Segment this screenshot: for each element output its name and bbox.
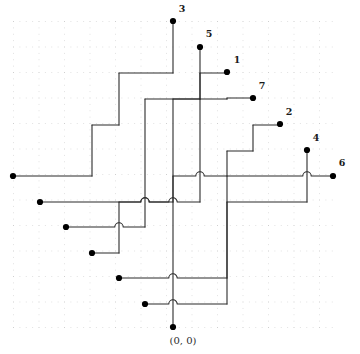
grid-dot xyxy=(39,212,40,213)
grid-dot xyxy=(141,327,142,328)
grid-dot xyxy=(217,53,218,54)
grid-dot xyxy=(13,85,14,86)
grid-dot xyxy=(313,21,314,22)
grid-dot xyxy=(90,129,91,130)
grid-dot xyxy=(90,314,91,315)
grid-dot xyxy=(166,180,167,181)
grid-dot xyxy=(179,21,180,22)
source-terminal-dot xyxy=(63,224,69,230)
grid-dot xyxy=(58,174,59,175)
grid-dot xyxy=(236,302,237,303)
grid-dot xyxy=(294,180,295,181)
grid-dot xyxy=(243,251,244,252)
grid-dot xyxy=(243,244,244,245)
grid-dot xyxy=(115,117,116,118)
grid-dot xyxy=(217,110,218,111)
grid-dot xyxy=(268,200,269,201)
grid-dot xyxy=(211,200,212,201)
wire-layer xyxy=(13,21,333,327)
grid-dot xyxy=(166,85,167,86)
grid-dot xyxy=(13,155,14,156)
grid-dot xyxy=(204,225,205,226)
grid-dot xyxy=(39,66,40,67)
grid-dot xyxy=(268,238,269,239)
grid-dot xyxy=(294,263,295,264)
grid-dot xyxy=(217,231,218,232)
grid-dot xyxy=(204,200,205,201)
grid-dot xyxy=(39,27,40,28)
grid-dot xyxy=(102,47,103,48)
grid-dot xyxy=(192,85,193,86)
grid-dot xyxy=(102,72,103,73)
grid-dot xyxy=(249,21,250,22)
grid-dot xyxy=(90,104,91,105)
grid-dot xyxy=(319,180,320,181)
grid-dot xyxy=(255,174,256,175)
grid-dot xyxy=(192,47,193,48)
grid-dot xyxy=(192,53,193,54)
grid-dot xyxy=(141,212,142,213)
grid-dot xyxy=(217,180,218,181)
grid-dot xyxy=(141,155,142,156)
grid-dot xyxy=(13,21,14,22)
grid-dot xyxy=(249,327,250,328)
grid-dot xyxy=(166,123,167,124)
grid-dot xyxy=(192,270,193,271)
grid-dot xyxy=(19,149,20,150)
grid-dot xyxy=(58,251,59,252)
grid-dot xyxy=(192,180,193,181)
grid-dot xyxy=(294,244,295,245)
grid-dot xyxy=(45,72,46,73)
grid-dot xyxy=(325,251,326,252)
grid-dot xyxy=(26,327,27,328)
grid-dot xyxy=(39,174,40,175)
grid-dot xyxy=(268,289,269,290)
grid-dot xyxy=(96,276,97,277)
grid-dot xyxy=(77,276,78,277)
grid-dot xyxy=(185,174,186,175)
grid-dot xyxy=(217,27,218,28)
grid-dot xyxy=(90,212,91,213)
grid-dot xyxy=(70,200,71,201)
grid-dot xyxy=(166,321,167,322)
grid-dot xyxy=(83,225,84,226)
grid-dot xyxy=(217,282,218,283)
grid-dot xyxy=(115,161,116,162)
grid-dot xyxy=(160,225,161,226)
grid-dot xyxy=(319,85,320,86)
grid-dot xyxy=(64,314,65,315)
grid-dot xyxy=(115,59,116,60)
grid-dot xyxy=(192,174,193,175)
grid-dot xyxy=(319,206,320,207)
grid-dot xyxy=(217,117,218,118)
grid-dot xyxy=(281,98,282,99)
grid-dot xyxy=(70,225,71,226)
grid-dot xyxy=(166,295,167,296)
grid-dot xyxy=(141,193,142,194)
grid-dot xyxy=(249,123,250,124)
grid-dot xyxy=(294,206,295,207)
grid-dot xyxy=(281,200,282,201)
grid-dot xyxy=(141,136,142,137)
grid-dot xyxy=(141,104,142,105)
grid-dot xyxy=(281,251,282,252)
grid-dot xyxy=(243,314,244,315)
grid-dot xyxy=(58,225,59,226)
grid-dot xyxy=(115,180,116,181)
grid-dot xyxy=(192,263,193,264)
grid-dot xyxy=(325,21,326,22)
grid-dot xyxy=(217,21,218,22)
grid-dot xyxy=(294,117,295,118)
grid-dot xyxy=(262,251,263,252)
grid-dot xyxy=(64,193,65,194)
grid-dot xyxy=(192,282,193,283)
grid-dot xyxy=(255,21,256,22)
grid-dot xyxy=(115,244,116,245)
grid-dot xyxy=(90,110,91,111)
grid-dot xyxy=(90,161,91,162)
terminal-label-4: 4 xyxy=(313,132,320,143)
grid-dot xyxy=(268,104,269,105)
grid-dot xyxy=(268,212,269,213)
grid-dot xyxy=(294,251,295,252)
grid-dot xyxy=(141,282,142,283)
